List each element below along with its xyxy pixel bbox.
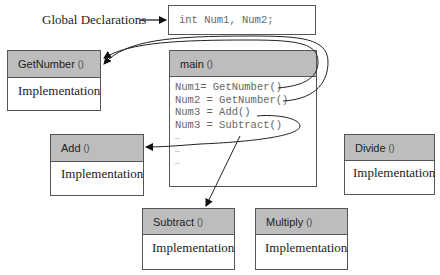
getnumber-name: GetNumber bbox=[18, 58, 75, 70]
multiply-implementation: Implementation bbox=[256, 235, 347, 256]
main-name: main bbox=[180, 58, 204, 70]
main-code-line: Num1= GetNumber() bbox=[175, 81, 316, 94]
add-header: Add () bbox=[51, 135, 143, 162]
global-declarations-label: Global Declarations bbox=[42, 12, 146, 28]
getnumber-function-box: GetNumber () Implementation bbox=[7, 50, 101, 111]
divide-paren: () bbox=[389, 143, 395, 153]
main-code-line: … bbox=[175, 131, 316, 144]
divide-header: Divide () bbox=[345, 135, 434, 161]
add-name: Add bbox=[61, 142, 81, 154]
main-header: main () bbox=[170, 51, 316, 77]
add-implementation: Implementation bbox=[51, 162, 143, 182]
main-code-line: … bbox=[175, 156, 316, 169]
getnumber-paren: () bbox=[78, 59, 84, 69]
main-code-line: Num3 = Add() bbox=[175, 106, 316, 119]
add-paren: () bbox=[84, 143, 90, 153]
main-code-line: Num3 = Subtract() bbox=[175, 119, 316, 132]
add-function-box: Add () Implementation bbox=[50, 134, 144, 196]
divide-function-box: Divide () Implementation bbox=[344, 134, 435, 195]
multiply-header: Multiply () bbox=[256, 209, 347, 235]
main-paren: () bbox=[207, 59, 213, 69]
subtract-implementation: Implementation bbox=[143, 235, 234, 256]
getnumber-header: GetNumber () bbox=[8, 51, 100, 78]
getnumber-implementation: Implementation bbox=[8, 78, 100, 99]
divide-name: Divide bbox=[355, 142, 386, 154]
subtract-function-box: Subtract () Implementation bbox=[142, 208, 235, 270]
subtract-name: Subtract bbox=[153, 216, 194, 228]
multiply-name: Multiply bbox=[266, 216, 303, 228]
global-declarations-box: int Num1, Num2; bbox=[168, 5, 316, 35]
subtract-paren: () bbox=[197, 217, 203, 227]
multiply-function-box: Multiply () Implementation bbox=[255, 208, 348, 270]
main-function-box: main () Num1= GetNumber() Num2 = GetNumb… bbox=[169, 50, 317, 187]
main-code-line: … bbox=[175, 144, 316, 157]
main-code-line: Num2 = GetNumber() bbox=[175, 94, 316, 107]
multiply-paren: () bbox=[306, 217, 312, 227]
divide-implementation: Implementation bbox=[345, 161, 434, 181]
subtract-header: Subtract () bbox=[143, 209, 234, 235]
global-declarations-code: int Num1, Num2; bbox=[169, 6, 315, 26]
main-code-body: Num1= GetNumber() Num2 = GetNumber() Num… bbox=[170, 77, 316, 169]
